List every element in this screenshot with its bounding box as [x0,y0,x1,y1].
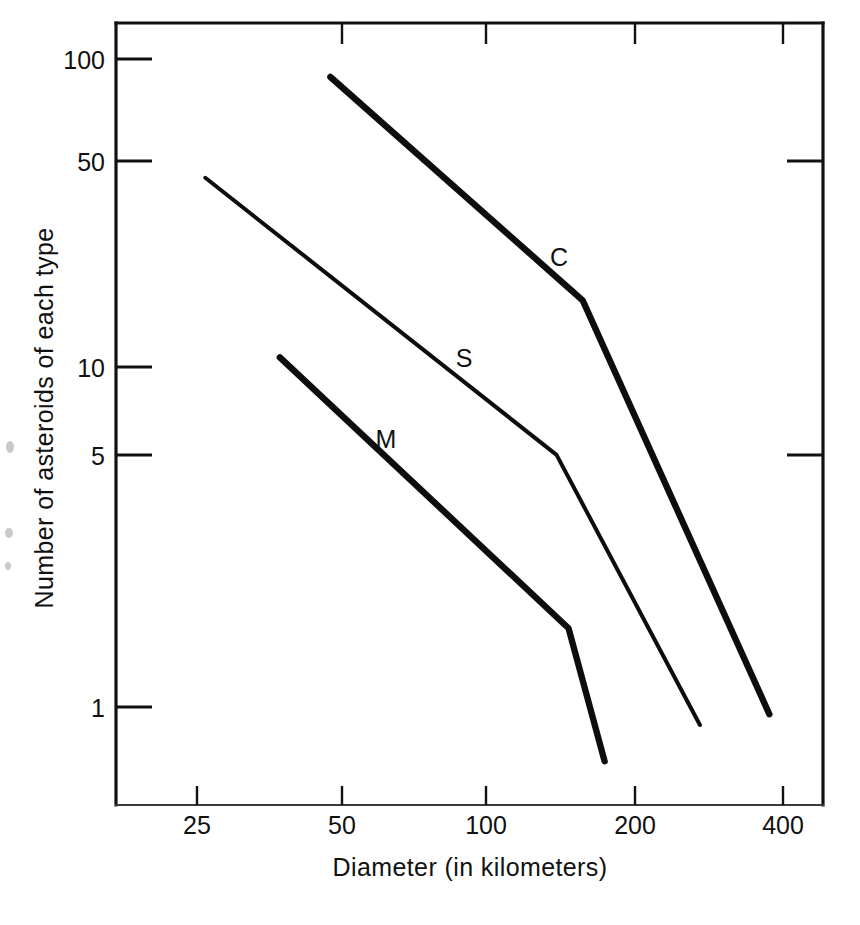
chart-canvas: 100 50 10 5 1 25 50 100 200 400 C S M Di… [0,0,860,925]
y-axis-ticks [116,59,152,707]
series-line-c [330,77,769,714]
x-tick-label-200: 200 [614,811,656,839]
x-axis-ticks [197,786,783,805]
y-axis-title: Number of asteroids of each type [30,227,58,608]
x-tick-label-50: 50 [328,811,356,839]
y-axis-ticks-right [787,161,823,455]
series-label-c: C [550,243,568,271]
y-tick-labels: 100 50 10 5 1 [63,46,105,722]
y-tick-label-5: 5 [91,442,105,470]
x-tick-label-400: 400 [762,811,804,839]
y-tick-label-1: 1 [91,694,105,722]
x-tick-label-25: 25 [183,811,211,839]
series-line-m [280,357,605,761]
data-series-group [205,77,769,761]
asteroid-size-distribution-chart: 100 50 10 5 1 25 50 100 200 400 C S M Di… [0,0,860,925]
y-tick-label-50: 50 [77,148,105,176]
series-label-s: S [456,344,473,372]
y-tick-label-10: 10 [77,354,105,382]
x-tick-labels: 25 50 100 200 400 [183,811,804,839]
scan-artifacts [5,441,14,570]
y-tick-label-100: 100 [63,46,105,74]
x-tick-label-100: 100 [465,811,507,839]
plot-frame [116,23,823,805]
x-axis-title: Diameter (in kilometers) [333,853,608,881]
series-line-s [205,178,700,725]
series-label-m: M [376,425,397,453]
series-labels-group: C S M [376,243,568,453]
x-axis-ticks-top [342,23,783,44]
